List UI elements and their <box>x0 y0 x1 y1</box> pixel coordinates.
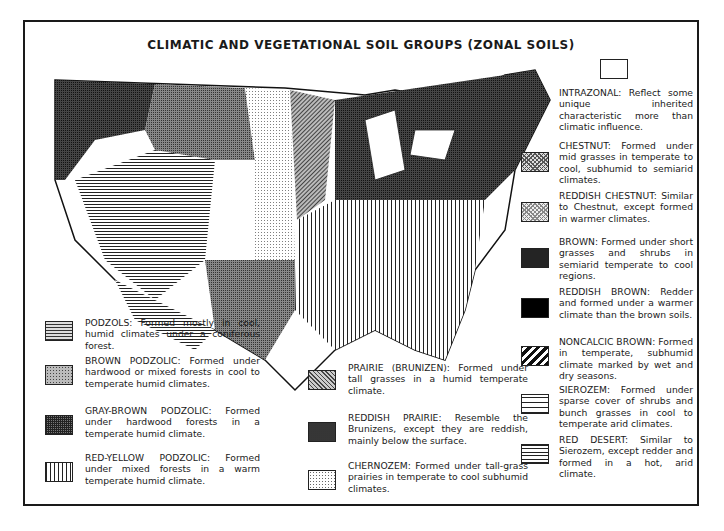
legend-text: CHESTNUT: Formed under mid grasses in te… <box>559 140 693 186</box>
intrazonal-swatch <box>600 59 628 79</box>
prairie-swatch <box>308 370 336 390</box>
legend-text: REDDISH CHESTNUT: Similar to Chestnut, e… <box>559 190 693 224</box>
legend-text: RED-YELLOW PODZOLIC: Formed under mixed … <box>85 452 260 486</box>
figure-title: CLIMATIC AND VEGETATIONAL SOIL GROUPS (Z… <box>25 38 697 52</box>
legend-text: NONCALCIC BROWN: Formed in temperate, su… <box>559 336 693 382</box>
legend-text: BROWN: Formed under short grasses and sh… <box>559 236 693 282</box>
legend-text: CHERNOZEM: Formed under tall-grass prair… <box>348 460 528 494</box>
sierozem-swatch <box>521 394 549 414</box>
reddish-prairie-swatch <box>308 422 336 442</box>
legend-text: REDDISH BROWN: Redder and formed under a… <box>559 286 693 320</box>
legend-text: REDDISH PRAIRIE: Resemble the Brunizens,… <box>348 412 528 446</box>
red-yellow-podzolic-swatch <box>45 462 73 482</box>
reddish-brown-swatch <box>521 298 549 318</box>
chestnut-swatch <box>521 152 549 172</box>
legend-text: PRAIRIE (BRUNIZEN): Formed under tall gr… <box>348 362 528 396</box>
legend-text: SIEROZEM: Formed under sparse cover of s… <box>559 384 693 430</box>
map-figure: CLIMATIC AND VEGETATIONAL SOIL GROUPS (Z… <box>23 20 699 506</box>
legend-text: PODZOLS: Formed mostly in cool, humid cl… <box>85 317 260 351</box>
legend-text: BROWN PODZOLIC: Formed under hardwood or… <box>85 355 260 389</box>
legend-text: INTRAZONAL: Reflect some unique inherite… <box>559 87 693 133</box>
podzols-swatch <box>45 321 73 341</box>
red-desert-swatch <box>521 444 549 464</box>
legend-text: GRAY-BROWN PODZOLIC: Formed under hardwo… <box>85 405 260 439</box>
chernozem-swatch <box>308 470 336 490</box>
brown-podzolic-swatch <box>45 365 73 385</box>
brown-swatch <box>521 248 549 268</box>
reddish-chestnut-swatch <box>521 202 549 222</box>
gray-brown-podzolic-swatch <box>45 415 73 435</box>
legend-text: RED DESERT: Similar to Sierozem, except … <box>559 434 693 480</box>
noncalcic-brown-swatch <box>521 346 549 366</box>
